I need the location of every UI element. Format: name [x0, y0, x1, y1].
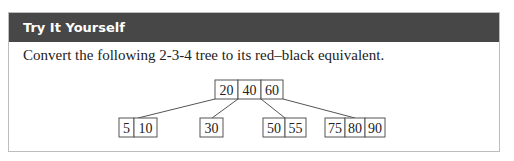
edge-root-child2 — [212, 99, 238, 118]
key: 40 — [243, 83, 257, 98]
key: 55 — [289, 121, 303, 136]
tree-node-root: 20 40 60 — [215, 80, 283, 99]
key: 10 — [139, 121, 153, 136]
edge-root-child4 — [283, 99, 355, 118]
key: 75 — [328, 121, 342, 136]
edge-root-child3 — [261, 99, 285, 118]
tree-diagram: 20 40 60 5 10 30 50 55 75 80 90 — [0, 0, 514, 161]
edge-root-child1 — [138, 99, 215, 118]
tree-node-child-4: 75 80 90 — [325, 118, 385, 137]
tree-node-child-2: 30 — [200, 118, 223, 137]
key: 20 — [220, 83, 234, 98]
key: 50 — [267, 121, 281, 136]
tree-node-child-1: 5 10 — [119, 118, 157, 137]
key: 90 — [368, 121, 382, 136]
key: 80 — [348, 121, 362, 136]
key: 30 — [205, 121, 219, 136]
key: 5 — [123, 121, 130, 136]
key: 60 — [265, 83, 279, 98]
tree-node-child-3: 50 55 — [263, 118, 306, 137]
